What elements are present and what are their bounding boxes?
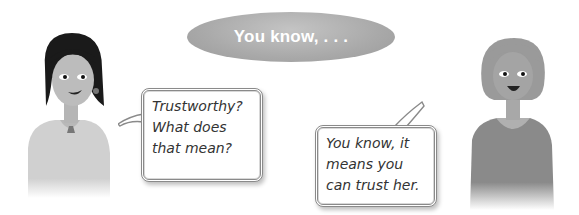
- title-text: You know, . . .: [234, 27, 348, 47]
- character-right: [462, 30, 562, 210]
- speech-line: that mean?: [152, 138, 252, 159]
- speech-line: means you: [326, 154, 426, 175]
- speech-line: What does: [152, 117, 252, 138]
- dialogue-illustration: You know, . . . Trustworthy? W: [0, 0, 579, 215]
- speech-line: can trust her.: [326, 175, 426, 196]
- speech-bubble-right: You know, it means you can trust her.: [315, 125, 437, 207]
- speech-bubble-left: Trustworthy? What does that mean?: [141, 88, 263, 182]
- character-left: [20, 28, 120, 198]
- speech-line: You know, it: [326, 133, 426, 154]
- title-bubble: You know, . . .: [187, 12, 395, 62]
- speech-line: Trustworthy?: [152, 96, 252, 117]
